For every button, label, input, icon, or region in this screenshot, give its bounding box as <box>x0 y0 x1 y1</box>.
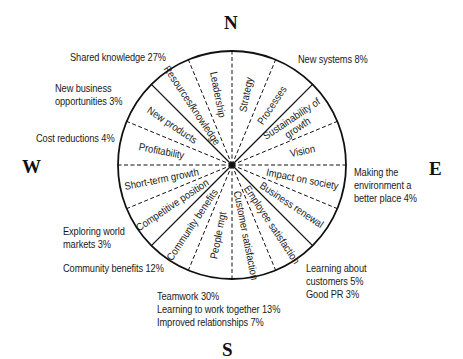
note-environment: Making the environment a better place 4% <box>354 166 417 205</box>
note-learning-customers: Learning about customers 5% Good PR 3% <box>306 262 366 301</box>
note-line: Cost reductions 4% <box>36 132 115 145</box>
note-new-business: New business opportunities 3% <box>55 82 122 108</box>
note-line: Learning about <box>306 262 366 275</box>
note-line: opportunities 3% <box>55 95 122 108</box>
note-line: Learning to work together 13% <box>157 303 280 316</box>
note-line: New business <box>55 82 122 95</box>
note-line: Community benefits 12% <box>63 262 164 275</box>
compass-east: E <box>429 159 442 178</box>
segment-labels: StrategyProcessesSustainability ofgrowth… <box>123 63 339 281</box>
note-new-systems: New systems 8% <box>298 53 368 66</box>
segment-label-leadership: Leadership <box>208 71 229 119</box>
wheel-hub <box>229 162 235 168</box>
compass-north: N <box>224 13 238 32</box>
compass-wheel-diagram: StrategyProcessesSustainability ofgrowth… <box>0 0 463 359</box>
segment-label-text: People mgt <box>208 211 229 260</box>
note-exploring-markets: Exploring world markets 3% <box>63 225 125 251</box>
note-line: Teamwork 30% <box>157 290 280 303</box>
note-line: Exploring world <box>63 225 125 238</box>
segment-label-people-mgt: People mgt <box>208 211 229 260</box>
note-community-benefits: Community benefits 12% <box>63 262 164 275</box>
note-shared-knowledge: Shared knowledge 27% <box>70 51 166 64</box>
note-line: New systems 8% <box>298 53 368 66</box>
segment-label-profitability: Profitability <box>138 141 186 161</box>
segment-label-vision: Vision <box>289 143 316 159</box>
segment-label-text: Strategy <box>237 76 255 113</box>
note-line: Making the <box>354 166 417 179</box>
compass-south: S <box>222 340 233 359</box>
note-line: Good PR 3% <box>306 288 366 301</box>
note-line: better place 4% <box>354 192 417 205</box>
note-line: customers 5% <box>306 275 366 288</box>
segment-label-strategy: Strategy <box>237 76 255 113</box>
segment-label-text: Profitability <box>138 141 186 161</box>
note-teamwork: Teamwork 30% Learning to work together 1… <box>157 290 280 329</box>
note-line: markets 3% <box>63 238 125 251</box>
segment-label-text: Leadership <box>208 71 229 119</box>
note-line: environment a <box>354 179 417 192</box>
note-line: Improved relationships 7% <box>157 316 280 329</box>
compass-west: W <box>22 157 41 176</box>
segment-label-text: Vision <box>289 143 316 159</box>
note-cost-reductions: Cost reductions 4% <box>36 132 115 145</box>
note-line: Shared knowledge 27% <box>70 51 166 64</box>
